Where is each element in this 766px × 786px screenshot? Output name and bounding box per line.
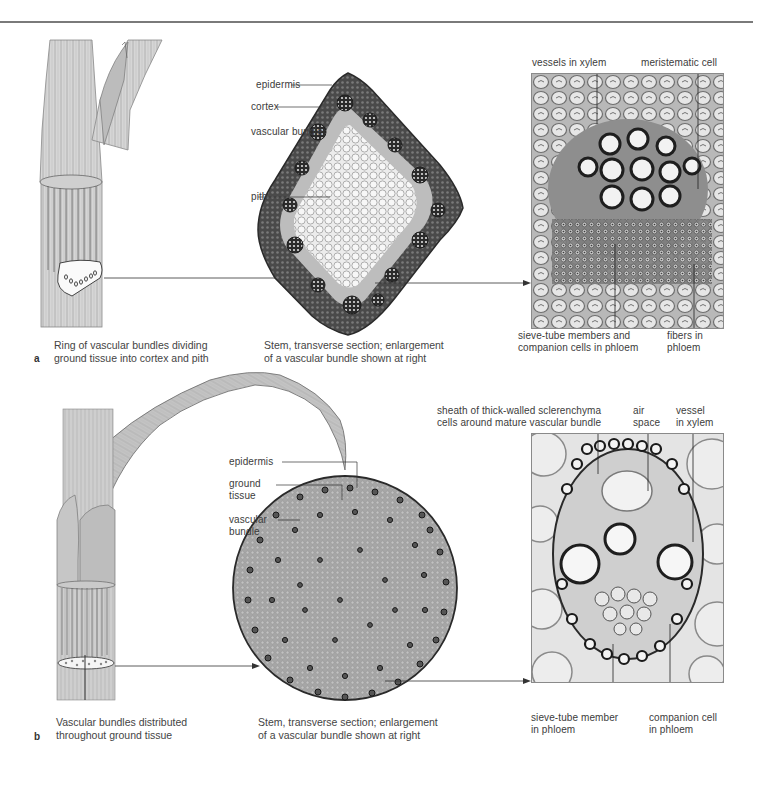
- monocot-stem-cross-section: [233, 462, 531, 700]
- label-line: space: [633, 417, 660, 429]
- label-line: ground: [229, 478, 261, 490]
- label-sieve-tube-member: sieve-tube member in phloem: [531, 712, 618, 736]
- label-air-space: air space: [633, 405, 660, 429]
- panel-letter-b: b: [34, 731, 40, 742]
- label-line: vascular: [229, 514, 267, 526]
- label-line: bundle: [229, 526, 267, 538]
- label-line: sheath of thick-walled sclerenchyma: [437, 405, 601, 417]
- label-line: tissue: [229, 490, 261, 502]
- label-sheath-sclerenchyma: sheath of thick-walled sclerenchyma cell…: [437, 405, 601, 429]
- label-epidermis-b: epidermis: [229, 456, 273, 468]
- label-ground-tissue: ground tissue: [229, 478, 261, 502]
- label-companion-cell: companion cell in phloem: [649, 712, 717, 736]
- monocot-bundle-micrograph: [531, 433, 724, 683]
- caption-line: Stem, transverse section; enlargement: [258, 716, 438, 729]
- label-line: in phloem: [649, 724, 717, 736]
- label-line: air: [633, 405, 660, 417]
- caption-line: of a vascular bundle shown at right: [258, 729, 438, 742]
- label-line: cells around mature vascular bundle: [437, 417, 601, 429]
- label-line: vessel: [676, 405, 713, 417]
- micrograph-b-image: [532, 434, 723, 682]
- label-line: companion cell: [649, 712, 717, 724]
- label-line: in phloem: [531, 724, 618, 736]
- caption-section-b: Stem, transverse section; enlargement of…: [258, 716, 438, 742]
- label-vessel-in-xylem: vessel in xylem: [676, 405, 713, 429]
- label-line: sieve-tube member: [531, 712, 618, 724]
- caption-line: Vascular bundles distributed: [56, 716, 187, 729]
- label-line: in xylem: [676, 417, 713, 429]
- label-vascular-bundle-b: vascular bundle: [229, 514, 267, 538]
- caption-stem-b: Vascular bundles distributed throughout …: [56, 716, 187, 742]
- caption-line: throughout ground tissue: [56, 729, 187, 742]
